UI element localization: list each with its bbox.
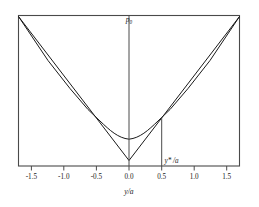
- tick-label-neg15: -1.5: [26, 173, 38, 181]
- tick-label-00: 0.0: [125, 173, 134, 181]
- p0-label-subscript: 0: [130, 19, 133, 25]
- tick-label-neg10: -1.0: [58, 173, 70, 181]
- tick-label-neg05: -0.5: [91, 173, 103, 181]
- figure-container: p0 y* /a -1.5 -1.0 -0.5 0.0 0.5 1.0 1.5 …: [0, 0, 259, 207]
- x-axis-label: y/a: [123, 187, 133, 196]
- plot-svg: p0 y* /a -1.5 -1.0 -0.5 0.0 0.5 1.0 1.5 …: [0, 0, 259, 207]
- tick-label-10: 1.0: [190, 173, 199, 181]
- tick-label-05: 0.5: [157, 173, 166, 181]
- tick-label-15: 1.5: [222, 173, 231, 181]
- ystar-annotation-label: y* /a: [164, 157, 180, 165]
